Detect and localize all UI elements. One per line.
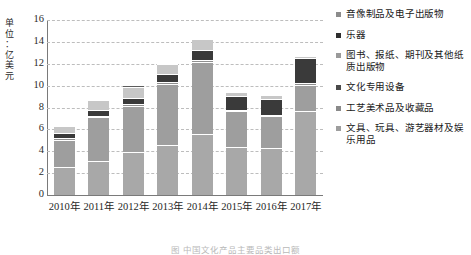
bar-segment <box>157 145 178 195</box>
legend-label: 工艺美术品及收藏品 <box>346 102 434 114</box>
legend-swatch-icon <box>336 85 341 90</box>
legend-label: 乐器 <box>346 29 366 41</box>
bar-segment <box>192 62 213 134</box>
bar-segment <box>157 84 178 145</box>
bar-segment <box>261 116 282 148</box>
bar-segment <box>54 126 75 133</box>
legend-label: 文具、玩具、游艺器材及娱乐用品 <box>346 122 469 145</box>
bar-segment <box>123 152 144 195</box>
y-axis-tick-label: 6 <box>20 122 44 133</box>
plot-area <box>47 20 323 196</box>
bar-2011年[interactable] <box>88 99 109 195</box>
legend-item[interactable]: 乐器 <box>336 29 469 41</box>
bar-segment <box>226 147 247 195</box>
bar-segment <box>226 96 247 110</box>
y-axis-tick-label: 10 <box>20 79 44 90</box>
y-axis-tick-label: 14 <box>20 35 44 46</box>
figure-caption: 图 中国文化产品主要品类出口额 <box>0 243 471 255</box>
legend-label: 文化专用设备 <box>346 81 405 93</box>
bar-segment <box>157 64 178 74</box>
gridline <box>47 64 323 65</box>
bar-2013年[interactable] <box>157 63 178 195</box>
legend-label: 音像制品及电子出版物 <box>346 8 444 20</box>
legend-swatch-icon <box>336 106 341 111</box>
x-axis-tick-label: 2017年 <box>283 198 329 213</box>
gridline <box>47 42 323 43</box>
legend-item[interactable]: 工艺美术品及收藏品 <box>336 102 469 114</box>
legend-swatch-icon <box>336 126 341 131</box>
bar-segment <box>295 58 316 83</box>
y-axis-tick-labels: 1614121086420 <box>0 20 44 196</box>
chart-legend: 音像制品及电子出版物乐器图书、报纸、期刊及其他纸质出版物文化专用设备工艺美术品及… <box>336 8 469 154</box>
bar-2014年[interactable] <box>192 38 213 195</box>
gridline <box>47 20 323 21</box>
legend-item[interactable]: 文具、玩具、游艺器材及娱乐用品 <box>336 122 469 145</box>
bar-segment <box>261 99 282 115</box>
bar-2015年[interactable] <box>226 91 247 195</box>
legend-item[interactable]: 图书、报纸、期刊及其他纸质出版物 <box>336 49 469 72</box>
legend-swatch-icon <box>336 12 341 17</box>
bar-segment <box>192 50 213 61</box>
gridline <box>47 86 323 87</box>
bar-2012年[interactable] <box>123 85 144 195</box>
x-axis-tick-labels: 2010年2011年2012年2013年2014年2015年2016年2017年 <box>47 198 323 218</box>
bar-segment <box>88 161 109 195</box>
y-axis-tick-label: 16 <box>20 13 44 24</box>
bar-segment <box>123 106 144 152</box>
bar-segment <box>226 111 247 147</box>
legend-swatch-icon <box>336 53 341 58</box>
bar-2016年[interactable] <box>261 94 282 195</box>
bar-segment <box>295 85 316 111</box>
bar-segment <box>88 117 109 161</box>
bar-segment <box>88 100 109 110</box>
y-axis-tick-label: 2 <box>20 166 44 177</box>
bar-segment <box>123 87 144 97</box>
legend-label: 图书、报纸、期刊及其他纸质出版物 <box>346 49 469 72</box>
bar-segment <box>54 167 75 195</box>
bar-2010年[interactable] <box>54 125 75 195</box>
bar-2017年[interactable] <box>295 55 316 195</box>
x-axis-line <box>47 195 323 196</box>
legend-item[interactable]: 音像制品及电子出版物 <box>336 8 469 20</box>
bar-segment <box>54 140 75 167</box>
legend-item[interactable]: 文化专用设备 <box>336 81 469 93</box>
bar-segment <box>261 148 282 195</box>
y-axis-tick-label: 4 <box>20 144 44 155</box>
y-axis-tick-label: 12 <box>20 57 44 68</box>
bar-segment <box>295 111 316 195</box>
bar-segment <box>157 74 178 82</box>
bar-segment <box>192 39 213 49</box>
y-axis-tick-label: 8 <box>20 101 44 112</box>
legend-swatch-icon <box>336 33 341 38</box>
bar-segment <box>192 134 213 195</box>
